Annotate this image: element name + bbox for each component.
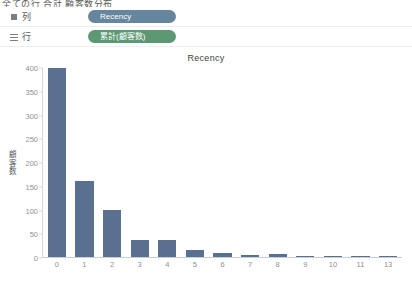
chart-title: Recency [0, 53, 412, 63]
columns-shelf-label: 列 [0, 10, 72, 23]
y-tick-label: 250 [25, 135, 38, 144]
y-tick-label: 400 [25, 64, 38, 73]
bar-slot[interactable] [319, 68, 347, 257]
y-tick-label: 0 [34, 254, 38, 263]
bar-slot[interactable] [291, 68, 319, 257]
columns-shelf[interactable]: 列 Recency [0, 7, 412, 27]
bar[interactable] [158, 240, 176, 257]
bar-slot[interactable] [181, 68, 209, 257]
y-tick-label: 350 [25, 87, 38, 96]
y-tick-mark [39, 234, 42, 235]
bar-slot[interactable] [153, 68, 181, 257]
plot-area[interactable]: 顧客数 050100150200250300350400 [42, 68, 402, 258]
bar[interactable] [324, 256, 342, 257]
x-tick-label: 11 [347, 260, 375, 269]
x-axis-ticks: 0123456789101113 [43, 260, 402, 269]
x-tick-label: 9 [291, 260, 319, 269]
bar[interactable] [186, 250, 204, 257]
rows-shelf[interactable]: 行 累計(顧客数) [0, 27, 412, 47]
x-tick-label: 4 [153, 260, 181, 269]
pill-running-sum-customers[interactable]: 累計(顧客数) [88, 30, 176, 43]
pill-recency[interactable]: Recency [88, 10, 176, 23]
x-tick-label: 13 [374, 260, 402, 269]
x-tick-label: 6 [209, 260, 237, 269]
bar[interactable] [48, 68, 66, 257]
y-tick-mark [39, 210, 42, 211]
x-tick-label: 8 [264, 260, 292, 269]
y-tick-mark [39, 139, 42, 140]
x-tick-label: 7 [236, 260, 264, 269]
bar[interactable] [75, 181, 93, 257]
rows-shelf-label: 行 [0, 30, 72, 43]
rows-shelf-text: 行 [22, 30, 31, 43]
window-header-text: 全ての行 合計 顧客数分布 [2, 0, 113, 7]
window-header-strip: 全ての行 合計 顧客数分布 [0, 0, 412, 7]
y-tick-label: 50 [30, 230, 38, 239]
columns-shelf-dropzone[interactable]: Recency [72, 10, 412, 23]
bar-series [43, 68, 402, 257]
chart-canvas[interactable]: Recency 顧客数 050100150200250300350400 012… [0, 48, 412, 287]
bar-slot[interactable] [126, 68, 154, 257]
bar[interactable] [131, 240, 149, 257]
y-tick-label: 150 [25, 182, 38, 191]
x-tick-label: 3 [126, 260, 154, 269]
bar-slot[interactable] [236, 68, 264, 257]
bar-slot[interactable] [264, 68, 292, 257]
bar[interactable] [269, 254, 287, 257]
rows-shelf-dropzone[interactable]: 累計(顧客数) [72, 30, 412, 43]
columns-shelf-text: 列 [22, 10, 31, 23]
columns-icon [10, 13, 18, 21]
bar[interactable] [296, 256, 314, 257]
bar-slot[interactable] [374, 68, 402, 257]
bar[interactable] [351, 256, 369, 257]
y-tick-label: 300 [25, 111, 38, 120]
y-tick-mark [39, 186, 42, 187]
y-tick-label: 200 [25, 159, 38, 168]
bar[interactable] [213, 253, 231, 257]
y-tick-mark [39, 258, 42, 259]
x-tick-label: 1 [71, 260, 99, 269]
x-tick-label: 0 [43, 260, 71, 269]
y-tick-mark [39, 91, 42, 92]
x-tick-label: 10 [319, 260, 347, 269]
rows-icon [10, 33, 18, 41]
bar-slot[interactable] [209, 68, 237, 257]
bar[interactable] [103, 210, 121, 257]
x-axis-line [42, 257, 402, 258]
y-tick-mark [39, 163, 42, 164]
shelf-container: 列 Recency 行 累計(顧客数) [0, 7, 412, 47]
y-tick-mark [39, 68, 42, 69]
bar-slot[interactable] [43, 68, 71, 257]
bar[interactable] [379, 256, 397, 257]
bar-slot[interactable] [71, 68, 99, 257]
y-axis-title: 顧客数 [6, 150, 16, 176]
bar-slot[interactable] [347, 68, 375, 257]
x-tick-label: 5 [181, 260, 209, 269]
y-tick-label: 100 [25, 206, 38, 215]
y-tick-mark [39, 115, 42, 116]
bar-slot[interactable] [98, 68, 126, 257]
x-tick-label: 2 [98, 260, 126, 269]
bar[interactable] [241, 255, 259, 257]
